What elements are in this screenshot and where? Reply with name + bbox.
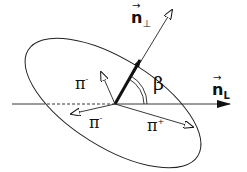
diagram-graphics xyxy=(0,0,247,172)
pi-minus-lower-label: π- xyxy=(89,115,102,131)
n-perp-label: → n⊥ xyxy=(131,10,151,26)
pi-minus-upper-arrow xyxy=(101,72,115,104)
vector-arrow-glyph: → xyxy=(213,73,221,83)
pi-plus-label: π+ xyxy=(147,118,164,134)
vector-arrow-glyph: → xyxy=(132,1,140,11)
physics-diagram: → n⊥ → nL β π- π- π+ xyxy=(0,0,247,172)
polarization-vector xyxy=(115,60,140,104)
beta-angle-arc-outer xyxy=(131,76,147,104)
beta-label: β xyxy=(153,74,164,93)
n-L-label: → nL xyxy=(212,82,230,98)
decay-plane-ellipse xyxy=(5,13,221,172)
pi-minus-upper-label: π- xyxy=(75,76,88,92)
beta-angle-arc-inner xyxy=(129,79,144,104)
